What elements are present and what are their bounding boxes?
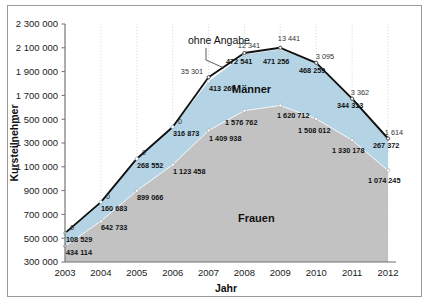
data-label: 13 441 [278, 34, 300, 43]
data-label: 471 256 [263, 57, 289, 66]
y-tick-label: 300 000 [24, 256, 58, 267]
data-label: 1 330 178 [332, 146, 364, 155]
x-axis-tick-labels: 2003 2004 2005 2006 2007 2008 2009 2010 … [54, 267, 398, 278]
x-tick-label: 2012 [377, 267, 398, 278]
data-label: 413 269 [209, 84, 235, 93]
x-tick-label: 2005 [126, 267, 147, 278]
series-label-frauen: Frauen [238, 212, 275, 224]
y-tick-label: 1 300 000 [16, 137, 58, 148]
data-label: 1 508 012 [298, 126, 330, 135]
x-tick-label: 2003 [54, 267, 75, 278]
data-label: 434 114 [66, 248, 93, 257]
data-label: 0 [70, 223, 74, 232]
data-label: 108 529 [66, 235, 92, 244]
data-label: 468 259 [299, 66, 325, 75]
y-axis-tick-labels: 300 000 500 000 700 000 900 000 1 100 00… [16, 18, 58, 267]
data-label: 1 614 [385, 128, 403, 137]
y-tick-label: 1 900 000 [16, 66, 58, 77]
x-tick-label: 2010 [306, 267, 327, 278]
data-label: 267 372 [373, 141, 399, 150]
data-label: 0 [106, 192, 110, 201]
data-label: 1 074 245 [368, 176, 400, 185]
series-label-maenner: Männer [232, 83, 272, 95]
y-tick-label: 1 100 000 [16, 161, 58, 172]
data-label: 1 620 712 [277, 111, 309, 120]
data-label: 0 [142, 148, 146, 157]
y-axis-title: Kursteilnehmer [8, 104, 20, 181]
y-tick-label: 1 700 000 [16, 90, 58, 101]
x-tick-label: 2006 [162, 267, 183, 278]
y-tick-label: 900 000 [24, 185, 58, 196]
data-label: 316 873 [173, 129, 199, 138]
y-tick-label: 2 100 000 [16, 42, 58, 53]
data-label: 899 066 [137, 193, 163, 202]
data-label: 344 313 [337, 101, 363, 110]
data-label: 1 409 938 [209, 134, 241, 143]
data-label: 12 341 [238, 41, 260, 50]
y-tick-label: 500 000 [24, 233, 58, 244]
data-label: 268 552 [137, 161, 163, 170]
y-tick-label: 700 000 [24, 209, 58, 220]
y-tick-label: 1 500 000 [16, 114, 58, 125]
data-label: 160 683 [101, 204, 127, 213]
x-axis-title: Jahr [215, 282, 237, 294]
x-tick-label: 2007 [198, 267, 219, 278]
data-label: 1 576 762 [225, 118, 257, 127]
data-label: 1 123 458 [173, 167, 205, 176]
data-label: 3 095 [316, 52, 334, 61]
data-label: 35 301 [181, 67, 203, 76]
x-tick-label: 2009 [270, 267, 291, 278]
data-label: 0 [178, 117, 182, 126]
y-tick-label: 2 300 000 [16, 18, 58, 29]
x-tick-label: 2004 [90, 267, 111, 278]
area-chart-svg: 300 000 500 000 700 000 900 000 1 100 00… [0, 0, 430, 305]
data-label: 472 541 [226, 57, 252, 66]
x-tick-label: 2011 [342, 267, 362, 278]
chart-root: 300 000 500 000 700 000 900 000 1 100 00… [0, 0, 430, 305]
x-tick-label: 2008 [234, 267, 255, 278]
data-label: 3 362 [351, 88, 369, 97]
data-label: 642 733 [101, 223, 127, 232]
